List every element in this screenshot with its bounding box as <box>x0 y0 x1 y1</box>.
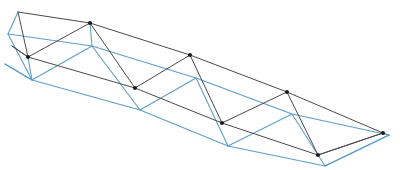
front-truss-joint-marker-7 <box>316 153 320 157</box>
front-truss-web-3 <box>90 23 135 88</box>
front-truss-joint-marker-1 <box>188 53 192 57</box>
front-truss-bottom-chord <box>12 46 383 155</box>
rear-truss-web-4 <box>140 78 196 110</box>
front-truss-joint-marker-5 <box>133 86 137 90</box>
front-truss-web-6 <box>222 92 287 123</box>
front-truss-joint-marker-3 <box>381 131 385 135</box>
rear-truss-web-2 <box>32 46 92 80</box>
front-truss-joint-marker-0 <box>88 21 92 25</box>
rear-truss-web-8 <box>325 135 389 166</box>
front-truss-web-8 <box>318 133 383 155</box>
truss-diagram-canvas <box>0 0 400 170</box>
front-truss-web-7 <box>287 92 318 155</box>
front-truss-joint-marker-6 <box>220 121 224 125</box>
front-truss-joint-marker-2 <box>285 90 289 94</box>
front-truss-joint-marker-4 <box>26 55 30 59</box>
front-truss-web-4 <box>135 55 190 88</box>
rear-truss-web-7 <box>292 114 325 166</box>
transverse-top-left <box>8 12 18 34</box>
truss-wireframe-svg <box>0 0 400 170</box>
rear-truss-layer <box>5 34 389 166</box>
rear-truss-web-6 <box>228 114 292 146</box>
transverse-top-apex-1 <box>90 23 92 46</box>
front-truss-web-end-stub <box>18 12 28 57</box>
